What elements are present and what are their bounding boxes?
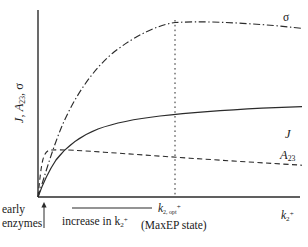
series-label-A23: A23 bbox=[280, 149, 295, 163]
series-label-sigma: σ bbox=[283, 11, 289, 23]
series-J-curve bbox=[38, 107, 302, 197]
annotation-early-enzymes-line2: enzymes bbox=[2, 217, 42, 231]
x-axis-label-superscript: + bbox=[290, 210, 294, 218]
figure-container: J, A23, σ σ J A23 early enzymes increase… bbox=[0, 0, 308, 247]
series-label-A23-subscript: 23 bbox=[288, 154, 296, 163]
annotation-increase-k2: increase in k2+ bbox=[62, 215, 128, 229]
annotation-increase-prefix: increase in bbox=[62, 215, 114, 227]
annotation-k2-opt: k2, opt+ bbox=[158, 202, 181, 215]
series-sigma-curve bbox=[38, 22, 302, 197]
annotation-early-enzymes: early enzymes bbox=[2, 203, 42, 230]
y-axis-label-A: A bbox=[12, 104, 26, 112]
y-axis-label-sigma: σ bbox=[12, 83, 26, 90]
y-axis-label-J: J bbox=[12, 118, 26, 124]
y-axis-label: J, A23, σ bbox=[13, 63, 27, 143]
x-axis-label: k2+ bbox=[281, 209, 294, 223]
annotation-k2-opt-subscript: 2, opt bbox=[163, 209, 177, 215]
annotation-increase-superscript: + bbox=[124, 216, 128, 224]
series-label-A23-letter: A bbox=[280, 148, 288, 162]
y-axis-label-A-subscript: 23 bbox=[18, 96, 27, 104]
annotation-early-enzymes-line1: early bbox=[2, 203, 42, 217]
annotation-maxep-state: (MaxEP state) bbox=[141, 219, 207, 231]
series-label-J: J bbox=[285, 128, 291, 141]
series-A23-curve bbox=[38, 150, 302, 197]
annotation-k2-opt-superscript: + bbox=[177, 203, 181, 211]
plot-canvas bbox=[0, 0, 308, 247]
y-axis-label-comma-2: , bbox=[12, 90, 26, 96]
y-axis-label-comma-1: , bbox=[12, 111, 26, 117]
